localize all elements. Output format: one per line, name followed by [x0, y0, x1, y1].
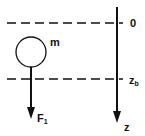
- origin-label: 0: [130, 17, 136, 29]
- zb-label: zb: [129, 74, 139, 87]
- axis-label: z: [124, 121, 130, 133]
- force-label-sub: 1: [44, 118, 48, 125]
- mass-sphere-icon: [16, 37, 46, 67]
- physics-diagram: 0 zb z m F1: [0, 0, 145, 136]
- zb-label-sub: b: [135, 80, 139, 87]
- force-arrow-icon: [27, 67, 35, 119]
- z-axis-arrow-icon: [113, 7, 121, 123]
- force-label: F1: [37, 112, 48, 125]
- mass-label: m: [50, 36, 60, 48]
